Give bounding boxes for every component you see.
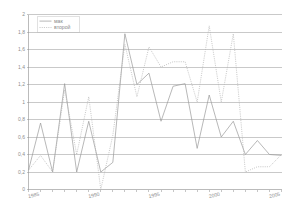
y-tick-label: 0,6 bbox=[18, 134, 25, 140]
x-tick-label: 1985 bbox=[27, 191, 39, 199]
series-line-dotted bbox=[29, 26, 282, 190]
ytick-labels-group: 00,20,40,60,811,21,41,61,82 bbox=[18, 11, 25, 192]
x-tick-label: 1990 bbox=[88, 191, 100, 199]
y-tick-label: 1,4 bbox=[18, 64, 25, 70]
legend-label: второй bbox=[54, 24, 71, 30]
x-tick-label: 1995 bbox=[148, 191, 160, 199]
y-tick-label: 0,4 bbox=[18, 151, 25, 157]
legend-label: мак bbox=[54, 18, 63, 24]
y-tick-label: 1 bbox=[22, 99, 25, 105]
chart-canvas: 00,20,40,60,811,21,41,61,82 198519901995… bbox=[0, 0, 285, 224]
y-tick-label: 1,2 bbox=[18, 81, 25, 87]
legend-group: маквторой bbox=[37, 17, 79, 33]
series-group bbox=[29, 26, 282, 190]
y-tick-label: 1,8 bbox=[18, 29, 25, 35]
gridlines-group bbox=[29, 15, 282, 173]
y-tick-label: 0,8 bbox=[18, 116, 25, 122]
x-tick-label: 2000 bbox=[208, 191, 220, 199]
y-tick-label: 0,2 bbox=[18, 169, 25, 175]
axis-group bbox=[27, 15, 282, 192]
x-tick-label: 2005 bbox=[268, 191, 280, 199]
y-tick-label: 0 bbox=[22, 186, 25, 192]
line-chart: 00,20,40,60,811,21,41,61,82 198519901995… bbox=[0, 0, 285, 224]
y-tick-label: 1,6 bbox=[18, 46, 25, 52]
xtick-labels-group: 19851990199520002005 bbox=[27, 191, 280, 199]
y-tick-label: 2 bbox=[22, 11, 25, 17]
